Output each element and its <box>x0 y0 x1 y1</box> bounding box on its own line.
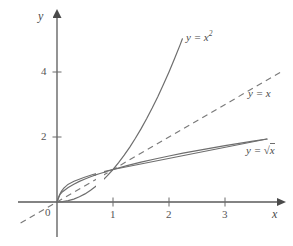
identity-label: y = x <box>248 88 271 99</box>
x-axis-label: x <box>272 208 277 220</box>
y-axis-label: y <box>38 10 43 22</box>
sqrt-label-prefix: y = <box>246 144 264 156</box>
x-tick-label-2: 2 <box>166 209 172 220</box>
y-tick-label-4: 4 <box>41 66 47 77</box>
parabola-label-text: y = x <box>186 31 209 43</box>
parabola-label: y = x2 <box>186 30 212 43</box>
figure-canvas: y x 0 1 2 3 2 4 y = x2 y = x y = √x <box>0 0 293 246</box>
sqrt-label-operand: x <box>270 143 275 156</box>
x-tick-label-3: 3 <box>222 209 228 220</box>
function-graph <box>0 0 293 246</box>
curve-sqrt-smooth <box>57 139 267 202</box>
y-tick-label-2: 2 <box>41 131 47 142</box>
origin-tick-label: 0 <box>45 207 51 218</box>
curve-identity <box>21 72 281 223</box>
curve-parabola <box>57 39 182 202</box>
x-tick-label-1: 1 <box>110 209 116 220</box>
parabola-label-exponent: 2 <box>209 29 213 38</box>
sqrt-label: y = √x <box>246 145 275 156</box>
curve-sqrt <box>57 139 267 202</box>
radical-icon: √ <box>264 144 270 156</box>
